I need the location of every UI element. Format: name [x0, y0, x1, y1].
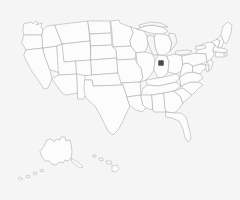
location-marker-group[interactable]: [159, 61, 164, 66]
state-alaska[interactable]: [40, 137, 72, 165]
state-south-dakota[interactable]: [90, 33, 112, 46]
state-indiana[interactable]: [154, 55, 169, 78]
state-arizona[interactable]: [52, 74, 78, 95]
hawaii-kauai[interactable]: [93, 155, 96, 157]
alaska-inset-group: [18, 137, 83, 180]
us-map-figure: Map of the United States State outline m…: [0, 0, 240, 200]
state-delaware[interactable]: [206, 65, 209, 72]
hawaii-inset-group: [93, 155, 119, 172]
alaska-panhandle[interactable]: [71, 158, 83, 168]
location-marker-indiana[interactable]: [159, 61, 164, 66]
usa-outline-map[interactable]: [0, 0, 240, 200]
state-oregon[interactable]: [22, 35, 43, 50]
state-north-dakota[interactable]: [88, 21, 111, 34]
hawaii-big-island[interactable]: [112, 165, 119, 172]
state-minnesota[interactable]: [111, 20, 133, 47]
state-florida[interactable]: [166, 112, 191, 142]
aleutian-islands[interactable]: [18, 169, 44, 180]
hawaii-oahu[interactable]: [99, 158, 103, 161]
state-alabama[interactable]: [152, 93, 166, 112]
state-washington[interactable]: [23, 21, 43, 35]
state-rhode-island[interactable]: [224, 53, 227, 56]
state-connecticut[interactable]: [216, 52, 224, 57]
state-texas[interactable]: [84, 80, 130, 135]
state-ohio[interactable]: [167, 54, 183, 74]
state-kansas[interactable]: [91, 58, 118, 75]
state-wyoming[interactable]: [62, 41, 91, 62]
contiguous-states-group: [22, 20, 232, 142]
hawaii-maui[interactable]: [106, 161, 112, 164]
